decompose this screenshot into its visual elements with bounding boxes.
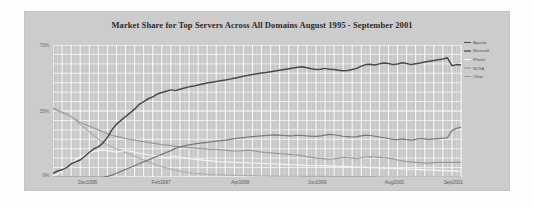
legend-item-iplanet[interactable]: iPlanet	[464, 55, 510, 64]
x-axis-tick-label-dec1995: Dec1995	[78, 179, 97, 185]
legend-swatch-microsoft	[464, 50, 471, 51]
chart-image-frame: Market Share for Top Servers Across All …	[24, 11, 510, 191]
chart-legend: ApacheMicrosoftiPlanetNCSAOther	[464, 38, 510, 81]
legend-label: Apache	[473, 40, 487, 45]
legend-label: Other	[473, 74, 483, 79]
y-axis-tick-label-70: 70%	[27, 42, 49, 48]
legend-swatch-other	[464, 76, 471, 77]
legend-label: Microsoft	[473, 48, 489, 53]
legend-label: iPlanet	[473, 57, 485, 62]
legend-item-ncsa[interactable]: NCSA	[464, 64, 510, 73]
chart-lines	[53, 45, 462, 177]
screenshot-canvas: Market Share for Top Servers Across All …	[0, 0, 533, 208]
grid-lines	[53, 45, 462, 177]
chart-title: Market Share for Top Servers Across All …	[62, 20, 462, 30]
legend-swatch-ncsa	[464, 67, 471, 68]
y-axis-tick-label-35: 35%	[27, 108, 49, 114]
y-axis-tick-label-0: 0%	[27, 172, 49, 178]
legend-swatch-apache	[464, 42, 471, 43]
x-axis-tick-label-jun1999: Jun1999	[308, 179, 327, 185]
x-axis-tick-label-feb1997: Feb1997	[152, 179, 171, 185]
legend-item-other[interactable]: Other	[464, 72, 510, 81]
legend-item-apache[interactable]: Apache	[464, 38, 510, 47]
x-axis-tick-label-aug2000: Aug2000	[385, 179, 404, 185]
legend-label: NCSA	[473, 66, 484, 71]
legend-swatch-iplanet	[464, 59, 471, 60]
x-axis-tick-label-sep2001: Sep2001	[444, 179, 463, 185]
legend-item-microsoft[interactable]: Microsoft	[464, 47, 510, 56]
plot-area	[53, 45, 462, 177]
x-axis-tick-label-apr1998: Apr1998	[231, 179, 249, 185]
